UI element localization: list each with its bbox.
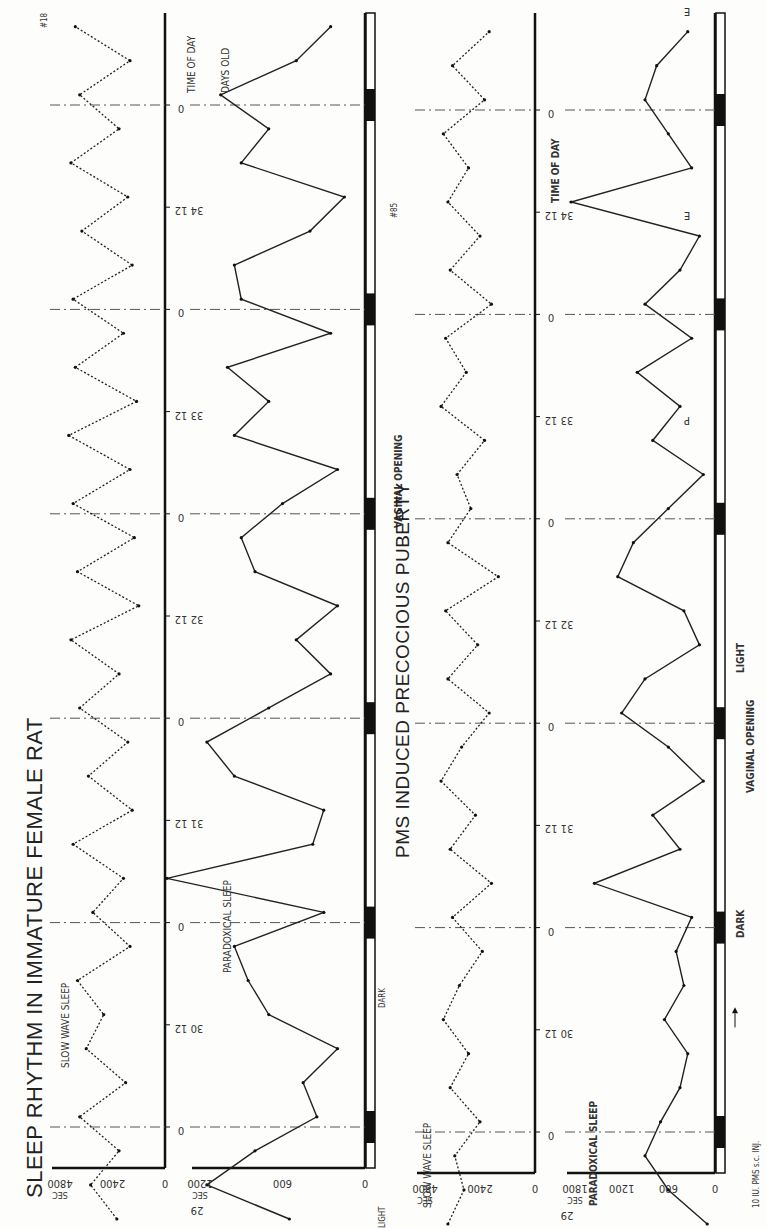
rat-b-time-of-day-label: TIME OF DAY xyxy=(550,138,561,203)
data-point xyxy=(240,536,243,539)
rat-a-days-old-label: DAYS OLD xyxy=(220,48,231,93)
data-point xyxy=(131,809,134,812)
y-tick-label: 0 xyxy=(162,1178,168,1189)
data-point xyxy=(131,264,134,267)
time-tick-label: 0 xyxy=(548,926,554,937)
data-point xyxy=(91,911,94,914)
data-point xyxy=(651,814,654,817)
time-tick-label: 12 xyxy=(175,614,188,625)
time-tick-label: 12 xyxy=(175,1023,188,1034)
data-point xyxy=(126,740,129,743)
data-point xyxy=(444,337,447,340)
data-point xyxy=(117,672,120,675)
day-label: 30 xyxy=(191,1023,204,1034)
data-point xyxy=(686,30,689,33)
rat-b-ps-label: PARADOXICAL SLEEP xyxy=(588,1101,599,1206)
time-tick-label: 12 xyxy=(545,619,558,630)
data-point xyxy=(481,950,484,953)
data-point xyxy=(678,1086,681,1089)
figure-canvas: 024004800SEC0120120120120120293031323334… xyxy=(0,0,767,1228)
data-point xyxy=(219,93,222,96)
data-point xyxy=(476,643,479,646)
light-dark-bar xyxy=(716,13,725,1173)
data-point xyxy=(449,269,452,272)
data-point xyxy=(686,1052,689,1055)
data-point xyxy=(80,229,83,232)
data-point xyxy=(663,1018,666,1021)
data-point xyxy=(343,195,346,198)
data-point xyxy=(490,303,493,306)
data-point xyxy=(78,93,81,96)
data-point xyxy=(72,502,75,505)
data-point xyxy=(72,843,75,846)
y-tick-label: 0 xyxy=(712,1183,718,1194)
dark-label: DARK xyxy=(378,988,387,1008)
rat-b-dark-label: DARK xyxy=(735,910,746,938)
time-tick-label: 12 xyxy=(175,410,188,421)
time-tick-label: 0 xyxy=(178,921,184,932)
data-point xyxy=(247,979,250,982)
data-point xyxy=(702,473,705,476)
data-point xyxy=(643,98,646,101)
data-point xyxy=(446,1222,449,1225)
stage-annotation: P xyxy=(684,415,690,426)
data-point xyxy=(667,132,670,135)
data-point xyxy=(336,604,339,607)
data-point xyxy=(678,405,681,408)
data-point xyxy=(632,541,635,544)
data-point xyxy=(497,575,500,578)
data-point xyxy=(253,1149,256,1152)
data-point xyxy=(74,25,77,28)
data-point xyxy=(678,269,681,272)
data-point xyxy=(205,740,208,743)
y-tick-label: 2400 xyxy=(100,1178,125,1189)
data-point xyxy=(295,638,298,641)
data-point xyxy=(267,127,270,130)
injection-label: 10 IU. PMS s.c. INJ. xyxy=(752,1141,761,1208)
data-point xyxy=(678,848,681,851)
data-point xyxy=(76,979,79,982)
y-tick-label: 0 xyxy=(362,1178,368,1189)
data-point xyxy=(281,502,284,505)
time-tick-label: 12 xyxy=(545,210,558,221)
data-point xyxy=(451,64,454,67)
dark-phase-block xyxy=(716,912,725,944)
day-label: 30 xyxy=(561,1028,574,1039)
data-point xyxy=(102,1013,105,1016)
data-point xyxy=(488,30,491,33)
data-point xyxy=(233,775,236,778)
data-point xyxy=(233,434,236,437)
sec-label: SEC xyxy=(192,1190,208,1199)
time-tick-label: 12 xyxy=(175,818,188,829)
rat-b-sws-label: SLOW WAVE SLEEP xyxy=(422,1123,433,1208)
data-point xyxy=(133,536,136,539)
dark-phase-block xyxy=(716,94,725,126)
data-point xyxy=(449,1086,452,1089)
data-point xyxy=(226,366,229,369)
data-point xyxy=(128,468,131,471)
data-point xyxy=(67,434,70,437)
data-point xyxy=(667,1188,670,1191)
dark-phase-block xyxy=(366,293,375,325)
data-point xyxy=(616,575,619,578)
data-point xyxy=(233,945,236,948)
time-tick-label: 0 xyxy=(548,1130,554,1141)
data-point xyxy=(78,706,81,709)
dark-phase-block xyxy=(366,1111,375,1143)
data-point xyxy=(240,161,243,164)
time-tick-label: 12 xyxy=(545,1028,558,1039)
sec-label: SEC xyxy=(567,1195,583,1204)
day-label: 29 xyxy=(561,1210,574,1221)
data-point xyxy=(137,604,140,607)
time-tick-label: 0 xyxy=(178,307,184,318)
time-tick-label: 0 xyxy=(548,312,554,323)
data-point xyxy=(467,166,470,169)
data-point xyxy=(442,132,445,135)
data-point xyxy=(698,234,701,237)
day-label: 31 xyxy=(191,818,204,829)
y-tick-label: 600 xyxy=(273,1178,292,1189)
data-point xyxy=(570,200,573,203)
dark-phase-block xyxy=(366,907,375,939)
data-point xyxy=(620,711,623,714)
data-point xyxy=(85,1047,88,1050)
